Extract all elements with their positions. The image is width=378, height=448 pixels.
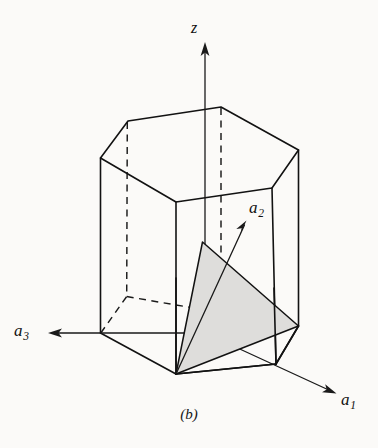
axis-label-a3: a3 [14,322,29,339]
axis-label-a2-text: a [249,198,258,217]
vertical-edge-right-front-overlay [274,288,276,364]
shaded-plane-fill [176,242,299,374]
figure-caption: (b) [0,406,378,423]
a1-axis-arrowhead [322,384,337,393]
hidden-edge-bottom-back-left [101,297,127,334]
hidden-edge-vertical-back-left [127,122,128,297]
top-face-outline [101,107,299,202]
axis-label-a2: a2 [249,199,264,216]
axis-label-a3-subscript: 3 [23,330,29,342]
axis-label-z-text: z [191,19,197,36]
hexagonal-prism-diagram [0,0,378,448]
axis-label-a3-text: a [14,321,23,340]
crystal-figure: z a1 a2 a3 (b) [0,0,378,448]
axis-label-z: z [191,20,197,36]
bottom-edge-front-left [101,333,177,374]
shaded-plane-group [176,242,299,374]
axis-label-a2-subscript: 2 [258,207,264,219]
